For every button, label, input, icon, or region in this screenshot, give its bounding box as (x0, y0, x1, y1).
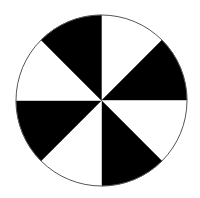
sector-wheel-diagram (0, 0, 200, 198)
sectors-group (16, 15, 187, 186)
